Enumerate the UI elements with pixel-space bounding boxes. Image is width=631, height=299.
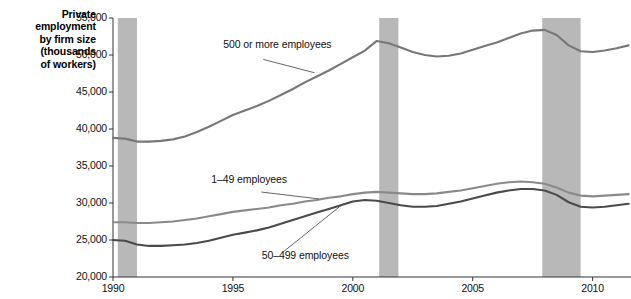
series-annotation-1: 500 or more employees (223, 38, 331, 50)
employment-by-firm-size-chart: Private employment by firm size (thousan… (0, 0, 631, 299)
y-tick-label: 25,000 (55, 233, 107, 245)
leader-line-1 (263, 59, 314, 72)
series-annotation-3: 50–499 employees (262, 249, 349, 261)
x-tick-label: 1990 (90, 282, 136, 294)
leader-line-3 (284, 204, 344, 252)
y-tick-label: 45,000 (55, 85, 107, 97)
y-tick-label: 55,000 (55, 11, 107, 23)
x-tick-label: 2005 (450, 282, 496, 294)
recession-2007-09 (542, 18, 580, 277)
series-annotation-2: 1–49 employees (211, 173, 287, 185)
annotation-leader-lines (261, 59, 343, 251)
x-tick-label: 2010 (570, 282, 616, 294)
recession-2001 (379, 18, 398, 277)
x-tick-label: 2000 (330, 282, 376, 294)
y-tick-label: 20,000 (55, 270, 107, 282)
recession-bands (118, 18, 581, 277)
y-axis-title-line-3: by firm size (0, 33, 96, 45)
y-tick-label: 30,000 (55, 196, 107, 208)
y-tick-label: 50,000 (55, 48, 107, 60)
leader-line-2 (261, 192, 319, 199)
recession-1990-91 (118, 18, 137, 277)
y-tick-label: 40,000 (55, 122, 107, 134)
y-tick-label: 35,000 (55, 159, 107, 171)
x-tick-label: 1995 (210, 282, 256, 294)
